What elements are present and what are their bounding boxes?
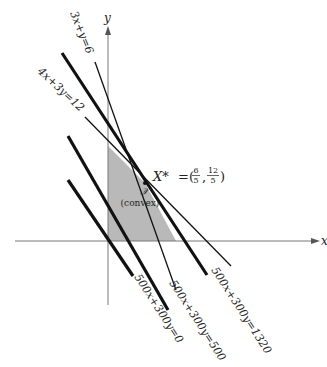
svg-text:,: , bbox=[202, 169, 206, 184]
constraint-label-4x-3y-12: 4x+3y=12 bbox=[34, 64, 87, 114]
svg-text:5: 5 bbox=[193, 176, 198, 185]
region-label: (convex) bbox=[121, 198, 160, 208]
y-axis-label: y bbox=[103, 11, 111, 25]
optimum-point bbox=[143, 181, 147, 185]
constraint-label-3x-y-6: 3x+y=6 bbox=[67, 9, 96, 55]
svg-text:12: 12 bbox=[208, 166, 218, 175]
svg-text:=(: =( bbox=[178, 169, 194, 184]
svg-text:6: 6 bbox=[193, 166, 198, 175]
constraint-line-4x-3y-12 bbox=[85, 117, 231, 266]
svg-text:X*: X* bbox=[152, 169, 169, 184]
objective-label-500: 500x+300y=500 bbox=[166, 278, 228, 364]
x-axis-label: x bbox=[321, 234, 327, 248]
lp-diagram: x y 3x+y=6 4x+3y=12 500x+300y=0 500x+300… bbox=[0, 0, 327, 367]
y-axis-arrow-icon bbox=[105, 26, 111, 35]
svg-text:): ) bbox=[220, 169, 225, 184]
x-axis-arrow-icon bbox=[311, 238, 320, 244]
svg-text:5: 5 bbox=[210, 176, 215, 185]
optimum-label: X* =( 6 5 , 12 5 ) bbox=[152, 166, 225, 185]
